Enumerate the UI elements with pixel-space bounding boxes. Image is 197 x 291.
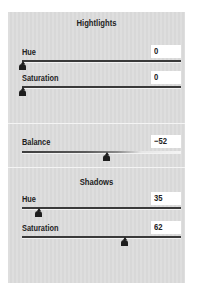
balance-input[interactable]: −52 bbox=[151, 135, 181, 148]
highlights-saturation-slider-thumb[interactable] bbox=[19, 90, 26, 96]
shadows-hue-label: Hue bbox=[22, 194, 36, 204]
shadows-saturation-slider-thumb[interactable] bbox=[121, 240, 128, 246]
highlights-hue-slider-track[interactable] bbox=[22, 60, 181, 62]
section-divider bbox=[8, 123, 185, 124]
balance-slider-track[interactable] bbox=[22, 151, 181, 153]
highlights-saturation-input[interactable]: 0 bbox=[151, 71, 181, 84]
shadows-title: Shadows bbox=[21, 177, 171, 187]
shadows-hue-slider-thumb[interactable] bbox=[35, 211, 42, 217]
balance-slider-thumb[interactable] bbox=[103, 155, 110, 161]
shadows-hue-slider-track[interactable] bbox=[22, 207, 181, 209]
highlights-title: Hightlights bbox=[21, 18, 171, 28]
highlights-hue-input[interactable]: 0 bbox=[151, 45, 181, 58]
shadows-saturation-slider-track[interactable] bbox=[22, 236, 181, 238]
shadows-saturation-input[interactable]: 62 bbox=[151, 221, 181, 234]
highlights-saturation-slider-track[interactable] bbox=[22, 86, 181, 88]
highlights-saturation-label: Saturation bbox=[22, 73, 59, 83]
highlights-hue-slider-thumb[interactable] bbox=[19, 64, 26, 70]
section-divider bbox=[8, 167, 185, 168]
balance-label: Balance bbox=[22, 137, 50, 147]
highlights-hue-label: Hue bbox=[22, 47, 36, 57]
shadows-saturation-label: Saturation bbox=[22, 223, 59, 233]
split-toning-panel: Hightlights Hue 0 Saturation 0 Balance −… bbox=[8, 12, 185, 283]
shadows-hue-input[interactable]: 35 bbox=[151, 192, 181, 205]
